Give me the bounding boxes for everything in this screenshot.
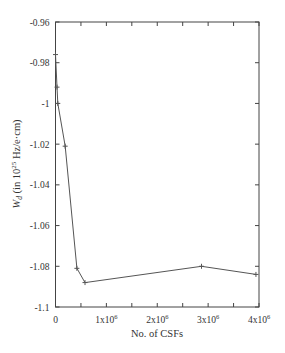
y-axis-title: Wd (in 1025 Hz/e·cm)	[10, 119, 24, 209]
y-tick-label: -1.08	[30, 262, 50, 272]
x-tick-label: 4x106	[248, 313, 271, 325]
plus-marker-icon	[253, 272, 258, 277]
x-tick-label: 0	[53, 315, 58, 325]
data-series	[53, 52, 258, 285]
y-tick-label: -1.06	[30, 221, 50, 231]
x-tick-label: 1x106	[95, 313, 118, 325]
plus-marker-icon	[55, 101, 60, 106]
plus-marker-icon	[199, 264, 204, 269]
y-tick-label: -1.1	[34, 303, 49, 313]
y-tick-label: -1.04	[30, 180, 50, 190]
y-tick-label: -1	[42, 99, 50, 109]
series-line	[56, 55, 256, 283]
plus-marker-icon	[63, 144, 68, 149]
plus-marker-icon	[53, 52, 58, 57]
plus-marker-icon	[83, 280, 88, 285]
plot-frame	[56, 22, 260, 307]
x-axis-label: No. of CSFs	[131, 328, 183, 339]
x-tick-label: 2x106	[146, 313, 169, 325]
y-tick-label: -0.96	[30, 18, 50, 28]
plus-marker-icon	[74, 266, 79, 271]
axis-ticks	[56, 22, 260, 307]
plot-border	[56, 22, 260, 307]
y-axis-label: Wd (in 1025 Hz/e·cm)	[10, 119, 24, 209]
line-chart: Wd (in 1025 Hz/e·cm) No. of CSFs -0.96-0…	[0, 0, 285, 353]
y-tick-label: -0.98	[30, 58, 50, 68]
y-tick-label: -1.02	[30, 140, 50, 150]
x-tick-label: 3x106	[197, 313, 220, 325]
tick-labels: -0.96-0.98-1-1.02-1.04-1.06-1.08-1.101x1…	[30, 18, 271, 326]
